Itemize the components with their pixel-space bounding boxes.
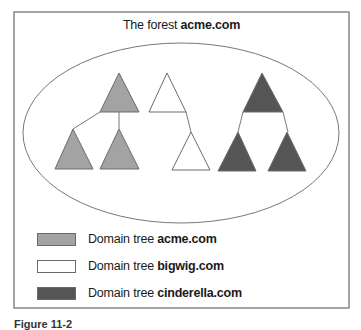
forest-title-prefix: The forest — [123, 18, 181, 32]
legend-label-acme: Domain tree acme.com — [88, 232, 217, 246]
legend-label-cinderella: Domain tree cinderella.com — [88, 286, 242, 300]
legend-prefix: Domain tree — [88, 286, 157, 300]
legend-domain: cinderella.com — [157, 286, 242, 300]
legend-swatch-bigwig — [37, 260, 76, 273]
legend-domain: bigwig.com — [157, 259, 224, 273]
legend-swatch-cinderella — [37, 287, 76, 300]
legend-prefix: Domain tree — [88, 259, 157, 273]
forest-title-domain: acme.com — [181, 18, 241, 32]
legend-domain: acme.com — [157, 232, 217, 246]
legend-prefix: Domain tree — [88, 232, 157, 246]
legend-swatch-acme — [37, 233, 76, 246]
figure-caption: Figure 11-2 — [14, 318, 72, 330]
forest-title: The forest acme.com — [14, 18, 349, 32]
legend-label-bigwig: Domain tree bigwig.com — [88, 259, 224, 273]
